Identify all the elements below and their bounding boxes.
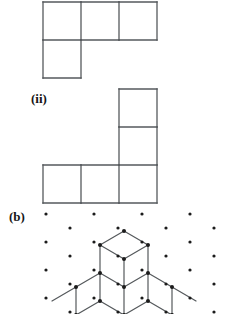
isometric-svg: [0, 0, 230, 314]
dot-grid-dots: [44, 212, 215, 313]
isometric-figure: [0, 0, 230, 314]
cube-stack-edges: [52, 231, 196, 314]
worksheet-page: (ii) (b): [0, 0, 230, 314]
